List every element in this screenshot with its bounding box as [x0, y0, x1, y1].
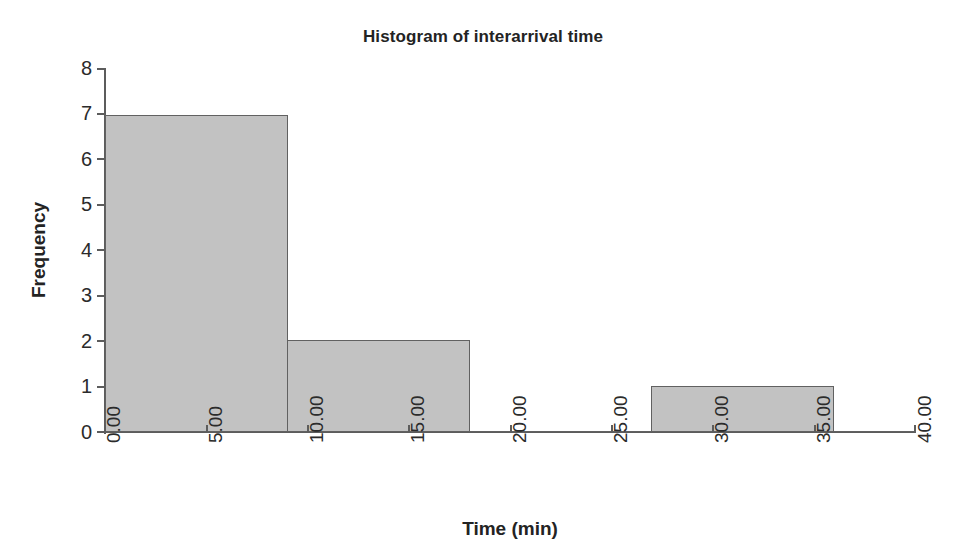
y-tick-1: [97, 386, 104, 388]
histogram-bar-4: [833, 431, 916, 433]
y-tick-3: [97, 295, 104, 297]
histogram-bar-0: [105, 115, 288, 432]
x-tick-label-35: 35.00: [814, 395, 833, 443]
y-tick-2: [97, 340, 104, 342]
chart-title: Histogram of interarrival time: [0, 27, 966, 47]
y-axis-title-container: Frequency: [26, 68, 52, 432]
x-tick-label-0: 0.00: [104, 406, 123, 443]
y-tick-label-5: 5: [62, 194, 92, 214]
y-tick-label-0: 0: [62, 422, 92, 442]
x-tick-label-40: 40.00: [915, 395, 934, 443]
y-tick-label-1: 1: [62, 376, 92, 396]
y-tick-label-3: 3: [62, 285, 92, 305]
y-tick-label-4: 4: [62, 240, 92, 260]
x-tick-label-25: 25.00: [611, 395, 630, 443]
x-tick-label-10: 10.00: [307, 395, 326, 443]
y-tick-7: [97, 113, 104, 115]
x-axis-title: Time (min): [105, 518, 915, 540]
x-tick-label-20: 20.00: [510, 395, 529, 443]
y-tick-label-8: 8: [62, 58, 92, 78]
y-tick-4: [97, 249, 104, 251]
y-axis-top-tick: [97, 68, 105, 70]
y-axis-title: Frequency: [28, 202, 50, 298]
histogram-bar-3: [651, 386, 834, 432]
y-tick-label-6: 6: [62, 149, 92, 169]
histogram-chart: Histogram of interarrival time Frequency…: [0, 0, 966, 555]
y-tick-6: [97, 158, 104, 160]
y-tick-label-7: 7: [62, 103, 92, 123]
x-tick-label-5: 5.00: [206, 406, 225, 443]
x-tick-label-30: 30.00: [712, 395, 731, 443]
y-tick-label-2: 2: [62, 331, 92, 351]
x-tick-label-15: 15.00: [408, 395, 427, 443]
y-tick-5: [97, 204, 104, 206]
